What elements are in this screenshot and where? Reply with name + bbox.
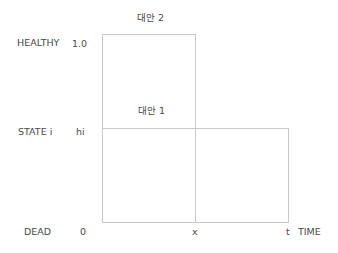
alternative-1-rect — [102, 128, 289, 223]
value-label-dead: 0 — [80, 227, 86, 237]
x-tick-t: t — [286, 227, 290, 237]
state-label-dead: DEAD — [24, 227, 51, 237]
state-label-state-i: STATE i — [18, 127, 52, 137]
alternative-1-label: 대안 1 — [138, 106, 165, 116]
value-label-healthy: 1.0 — [72, 39, 87, 49]
x-tick-x: x — [192, 227, 198, 237]
x-axis-label-time: TIME — [298, 227, 321, 237]
value-label-state-i: hi — [76, 127, 85, 137]
alternative-2-label: 대안 2 — [137, 13, 164, 23]
state-label-healthy: HEALTHY — [17, 38, 59, 48]
